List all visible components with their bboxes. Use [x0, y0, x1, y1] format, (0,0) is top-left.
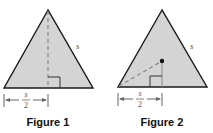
dimension-s-over-2: s 2 — [118, 89, 162, 109]
figure-2: s s 2 Figure 2 — [118, 10, 207, 128]
dimension-s-over-2: s 2 — [4, 90, 48, 110]
side-label: s — [76, 41, 80, 51]
side-label: s — [190, 41, 194, 51]
center-point — [160, 59, 164, 63]
dimension-numerator: s — [138, 89, 141, 98]
figure-caption: Figure 1 — [27, 116, 70, 128]
dimension-denominator: 2 — [24, 101, 28, 110]
figures-diagram: s s 2 Figure 1 s s 2 — [0, 0, 213, 133]
dimension-denominator: 2 — [138, 100, 142, 109]
dimension-numerator: s — [24, 90, 27, 99]
figure-caption: Figure 2 — [141, 116, 184, 128]
figure-1: s s 2 Figure 1 — [4, 10, 93, 128]
